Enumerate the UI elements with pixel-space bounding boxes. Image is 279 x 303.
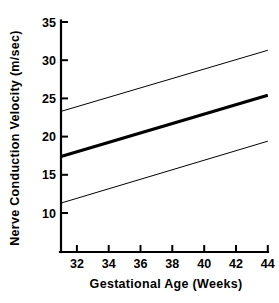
x-tick-label-36: 36: [134, 257, 148, 271]
x-axis-tick-labels: 32 34 36 38 40 42 44: [70, 257, 275, 271]
y-tick-label-35: 35: [42, 16, 56, 30]
y-tick-label-20: 20: [42, 130, 56, 144]
chart-plot-area: 35 30 25 20 15 10 32 34 36 38 40 42 44 G…: [0, 0, 279, 303]
x-tick-label-32: 32: [70, 257, 84, 271]
x-tick-label-40: 40: [197, 257, 211, 271]
y-axis-tick-labels: 35 30 25 20 15 10: [42, 16, 56, 221]
y-tick-label-30: 30: [42, 54, 56, 68]
x-tick-label-42: 42: [229, 257, 243, 271]
y-tick-label-15: 15: [42, 168, 56, 182]
x-axis-title: Gestational Age (Weeks): [90, 277, 243, 291]
y-tick-label-10: 10: [42, 207, 56, 221]
x-tick-label-38: 38: [165, 257, 179, 271]
lower-confidence-bound-line: [61, 141, 268, 203]
y-tick-label-25: 25: [42, 92, 56, 106]
x-tick-label-34: 34: [102, 257, 116, 271]
x-tick-label-44: 44: [261, 257, 275, 271]
y-axis-title: Nerve Conduction Velocity (m/sec): [8, 30, 22, 246]
upper-confidence-bound-line: [61, 50, 268, 111]
mean-regression-line: [61, 95, 268, 156]
data-series-group: [61, 50, 268, 203]
nerve-conduction-velocity-chart: 35 30 25 20 15 10 32 34 36 38 40 42 44 G…: [0, 0, 279, 303]
